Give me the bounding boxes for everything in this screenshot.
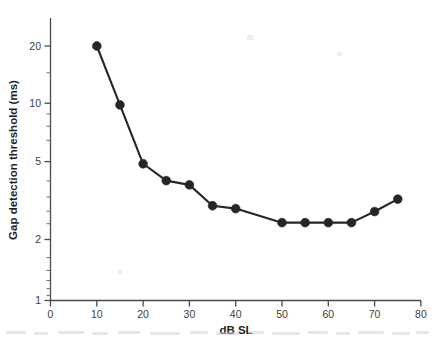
data-point xyxy=(162,176,171,185)
x-tick-label: 10 xyxy=(91,308,103,320)
x-axis-title: dB SL xyxy=(219,324,252,336)
data-series-group xyxy=(92,42,402,227)
y-axis-tick-labels: 20 10 5 2 1 xyxy=(29,40,41,307)
data-markers xyxy=(92,42,402,227)
data-point xyxy=(208,201,217,210)
y-tick-label: 10 xyxy=(29,97,41,109)
x-tick-label: 20 xyxy=(137,308,149,320)
data-point xyxy=(324,218,333,227)
x-tick-label: 60 xyxy=(322,308,334,320)
data-point xyxy=(278,218,287,227)
chart-figure: 20 10 5 2 1 0 10 20 30 40 50 60 70 80 dB… xyxy=(0,0,435,342)
y-tick-label: 5 xyxy=(35,155,41,167)
data-point xyxy=(301,218,310,227)
x-axis-tick-labels: 0 10 20 30 40 50 60 70 80 xyxy=(48,308,427,320)
y-axis-title: Gap detection threshold (ms) xyxy=(7,80,19,240)
data-point xyxy=(393,195,402,204)
x-tick-label: 70 xyxy=(369,308,381,320)
data-point xyxy=(92,42,101,51)
x-tick-label: 50 xyxy=(276,308,288,320)
x-tick-label: 80 xyxy=(415,308,427,320)
y-axis-major-ticks xyxy=(45,46,51,301)
data-point xyxy=(347,218,356,227)
data-point xyxy=(139,159,148,168)
axes-group xyxy=(51,18,422,301)
data-point xyxy=(231,204,240,213)
data-point xyxy=(116,100,125,109)
x-tick-label: 30 xyxy=(184,308,196,320)
data-point xyxy=(185,180,194,189)
x-axis-ticks xyxy=(51,301,421,307)
x-tick-label: 40 xyxy=(230,308,242,320)
data-point xyxy=(370,207,379,216)
data-line xyxy=(97,46,398,223)
y-tick-label: 20 xyxy=(29,40,41,52)
gap-detection-threshold-chart: 20 10 5 2 1 0 10 20 30 40 50 60 70 80 dB… xyxy=(0,0,435,342)
y-tick-label: 2 xyxy=(35,233,41,245)
x-tick-label: 0 xyxy=(48,308,54,320)
y-tick-label: 1 xyxy=(35,294,41,306)
